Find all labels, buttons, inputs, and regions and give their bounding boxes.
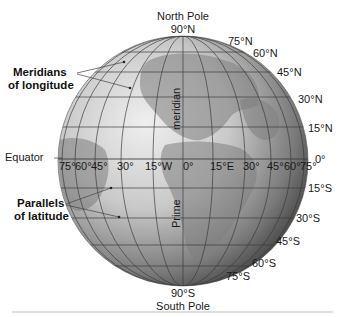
lat-label-45s: 45°S bbox=[276, 235, 300, 247]
lat-label-45n: 45°N bbox=[277, 66, 302, 78]
meridians-label-line2: of longitude bbox=[8, 79, 74, 91]
lat-label-15n: 15°N bbox=[308, 122, 333, 134]
north-pole-label: North Pole bbox=[157, 10, 209, 22]
lat-label-60n: 60°N bbox=[253, 47, 278, 59]
north-pole-lat: 90°N bbox=[171, 23, 196, 35]
lon-label-30w: 30° bbox=[117, 160, 134, 172]
parallels-label-line1: Parallels bbox=[17, 197, 64, 209]
longitude-labels: 75° 60° 45° 30° 15°W 0° 15°E 30° 45° 60°… bbox=[59, 160, 317, 172]
parallels-label-line2: of latitude bbox=[14, 210, 69, 222]
meridian-label: meridian bbox=[170, 88, 182, 130]
south-pole-label: South Pole bbox=[156, 300, 210, 312]
lat-label-60s: 60°S bbox=[252, 257, 276, 269]
lon-label-15e: 15°E bbox=[210, 160, 234, 172]
south-pole-lat: 90°S bbox=[171, 287, 195, 299]
prime-label: Prime bbox=[170, 199, 182, 228]
lat-label-75n: 75°N bbox=[228, 35, 253, 47]
lat-label-30s: 30°S bbox=[296, 212, 320, 224]
meridians-label-line1: Meridians bbox=[13, 66, 67, 78]
lon-label-60w: 60° bbox=[75, 160, 92, 172]
lon-label-45e: 45° bbox=[267, 160, 284, 172]
lon-label-45w: 45° bbox=[91, 160, 108, 172]
lon-label-30e: 30° bbox=[243, 160, 260, 172]
lon-label-0: 0° bbox=[183, 160, 194, 172]
lat-label-30n: 30°N bbox=[298, 93, 323, 105]
lon-label-75e: 75° bbox=[300, 160, 317, 172]
lon-label-60e: 60° bbox=[284, 160, 301, 172]
lat-label-15s: 15°S bbox=[308, 182, 332, 194]
lat-label-75s: 75°S bbox=[226, 270, 250, 282]
globe-diagram: North Pole 90°N 90°S South Pole 75°N 60°… bbox=[0, 0, 345, 317]
equator-label: Equator bbox=[5, 151, 44, 163]
lon-label-15w: 15°W bbox=[145, 160, 173, 172]
lon-label-75w: 75° bbox=[59, 160, 76, 172]
